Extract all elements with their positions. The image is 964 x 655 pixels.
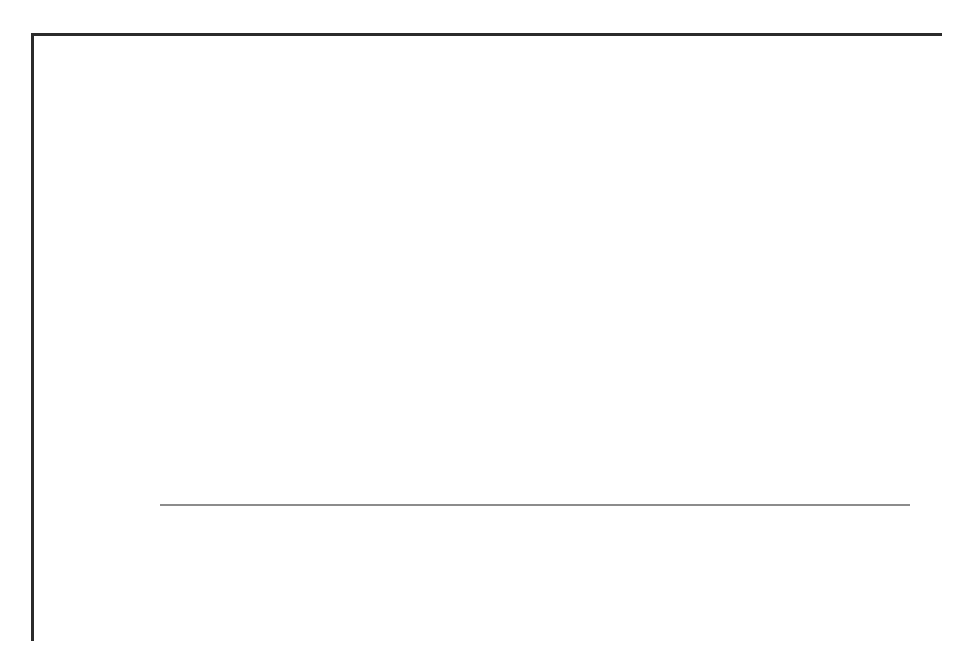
y-axis-title bbox=[46, 178, 86, 328]
bar-series-container bbox=[160, 80, 910, 505]
chart-page bbox=[0, 0, 964, 655]
stacked-bar-chart bbox=[0, 0, 964, 655]
y-axis-ticks bbox=[98, 80, 150, 505]
plot-area bbox=[160, 80, 910, 505]
x-axis-tick-marks bbox=[160, 505, 910, 515]
x-axis-labels bbox=[160, 518, 910, 548]
